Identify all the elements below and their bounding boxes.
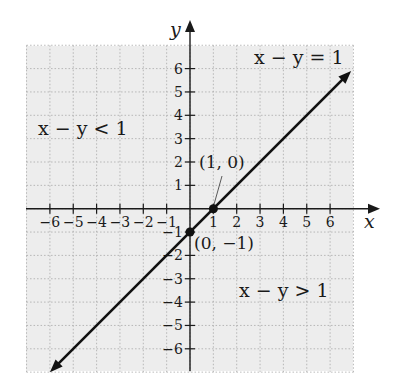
equation-label: x − y = 1 <box>254 46 344 68</box>
point-1-0 <box>209 204 218 213</box>
x-tick-label: 2 <box>232 214 241 230</box>
y-tick-label: 4 <box>174 107 183 123</box>
x-axis-label: x <box>364 210 375 232</box>
y-tick-label: −6 <box>162 341 183 357</box>
x-tick-label: 4 <box>279 214 288 230</box>
y-tick-label: 1 <box>174 177 183 193</box>
y-axis-label: y <box>169 18 181 40</box>
coordinate-plane: −6−5−4−3−2−1123456654321−1−2−3−4−5−6 y x… <box>0 0 397 389</box>
x-tick-label: 1 <box>209 214 218 230</box>
y-tick-label: 2 <box>174 154 183 170</box>
y-axis-arrow-icon <box>185 20 195 32</box>
y-tick-label: 6 <box>174 61 183 77</box>
x-tick-label: −2 <box>133 214 154 230</box>
y-tick-label: −1 <box>162 224 183 240</box>
x-tick-label: 5 <box>302 214 311 230</box>
x-tick-label: −6 <box>40 214 61 230</box>
y-tick-label: −4 <box>162 294 183 310</box>
x-tick-label: −4 <box>86 214 107 230</box>
region-label-less-than: x − y < 1 <box>38 117 128 139</box>
region-label-greater-than: x − y > 1 <box>239 279 329 301</box>
x-tick-label: −3 <box>110 214 131 230</box>
y-tick-label: −5 <box>162 317 183 333</box>
y-tick-label: 3 <box>174 131 183 147</box>
y-tick-label: 5 <box>174 84 183 100</box>
point-label-0-neg1: (0, −1) <box>194 233 254 253</box>
y-tick-label: −3 <box>162 271 183 287</box>
x-tick-label: 3 <box>256 214 265 230</box>
x-tick-label: 6 <box>326 214 335 230</box>
x-tick-label: −5 <box>63 214 84 230</box>
point-label-1-0: (1, 0) <box>199 152 245 172</box>
